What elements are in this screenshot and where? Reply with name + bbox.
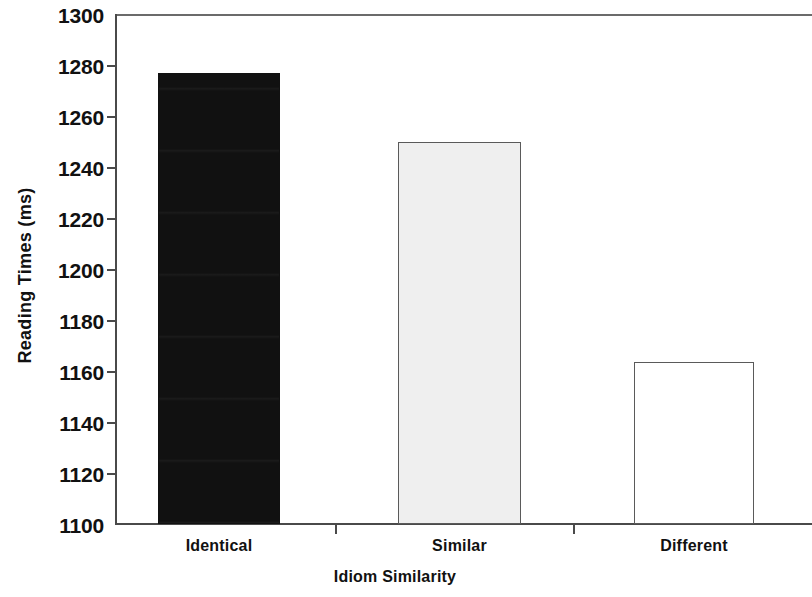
y-tick-mark — [107, 65, 115, 67]
y-tick-mark — [107, 320, 115, 322]
bar-different[interactable] — [634, 362, 754, 524]
y-axis-line — [115, 14, 117, 525]
y-tick-label: 1280 — [28, 56, 104, 77]
y-tick-label: 1220 — [28, 209, 104, 230]
bar-chart: Reading Times (ms) 1300 1280 1260 1240 1… — [0, 0, 812, 597]
y-tick-label: 1160 — [28, 362, 104, 383]
y-tick-mark — [107, 473, 115, 475]
bar-identical[interactable] — [158, 73, 280, 524]
y-tick-mark — [107, 116, 115, 118]
x-tick-label-different: Different — [634, 537, 754, 555]
plot-area — [115, 14, 812, 525]
y-tick-mark — [107, 218, 115, 220]
y-tick-label: 1100 — [28, 515, 104, 536]
y-tick-label: 1120 — [28, 464, 104, 485]
y-tick-label: 1300 — [28, 5, 104, 26]
x-tick-mark — [335, 525, 337, 534]
x-tick-label-similar: Similar — [398, 537, 521, 555]
y-tick-mark — [107, 422, 115, 424]
bar-similar[interactable] — [398, 142, 521, 524]
y-tick-label: 1180 — [28, 311, 104, 332]
y-tick-mark — [107, 167, 115, 169]
y-tick-mark — [107, 269, 115, 271]
plot-top-border — [115, 14, 812, 16]
x-axis-title: Idiom Similarity — [115, 568, 675, 586]
bar-texture — [159, 74, 279, 523]
y-tick-mark — [107, 371, 115, 373]
x-tick-mark — [573, 525, 575, 534]
y-tick-label: 1240 — [28, 158, 104, 179]
y-tick-label: 1260 — [28, 107, 104, 128]
y-tick-label: 1140 — [28, 413, 104, 434]
x-tick-label-identical: Identical — [158, 537, 280, 555]
y-tick-label: 1200 — [28, 260, 104, 281]
y-axis-tick-labels: 1300 1280 1260 1240 1220 1200 1180 1160 … — [28, 0, 104, 597]
